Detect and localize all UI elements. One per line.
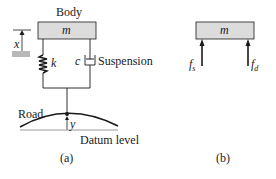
caption-a: (a) bbox=[60, 152, 73, 164]
fd-arrow-head bbox=[246, 39, 251, 46]
body-label: Body bbox=[56, 6, 82, 18]
contact-point bbox=[65, 112, 69, 116]
fd-label: fd bbox=[251, 58, 258, 75]
fs-arrow-head bbox=[200, 39, 205, 46]
reference-ground bbox=[12, 51, 30, 57]
caption-b: (b) bbox=[216, 152, 230, 164]
mass-label: m bbox=[62, 24, 71, 36]
x-label: x bbox=[14, 38, 19, 50]
y-arrow-head bbox=[65, 116, 69, 120]
fd-subscript: d bbox=[254, 64, 258, 73]
diagram-canvas bbox=[0, 0, 276, 179]
fs-subscript: s bbox=[192, 64, 195, 73]
suspension-label: Suspension bbox=[98, 55, 153, 67]
spring-label: k bbox=[51, 57, 56, 69]
damper-label: c bbox=[75, 55, 80, 67]
spring-coil bbox=[39, 55, 47, 73]
free-body-mass-label: m bbox=[220, 24, 229, 36]
road-label: Road bbox=[18, 108, 43, 120]
x-arrow-head bbox=[20, 30, 25, 35]
y-label: y bbox=[70, 118, 75, 130]
datum-label: Datum level bbox=[80, 134, 139, 146]
fs-label: fs bbox=[189, 58, 195, 75]
